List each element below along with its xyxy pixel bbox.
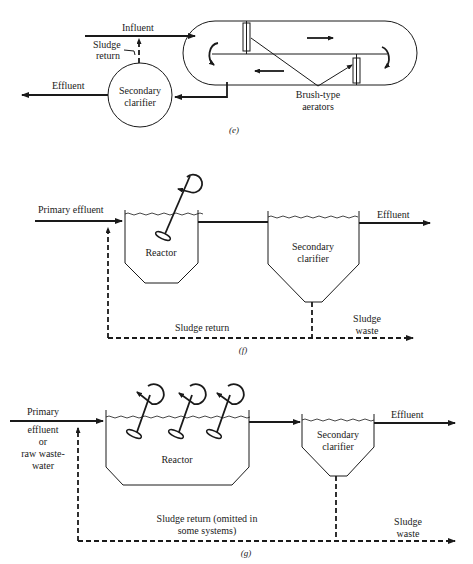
primary-label: Primary [27,406,59,417]
mechanical-aerator-icon-1 [125,384,163,440]
influent-label: Influent [122,22,154,33]
mechanical-aerator-icon-3 [205,384,243,440]
sludge-return-label-2: return [96,50,120,61]
ditch-outlet-line [175,82,227,97]
aerators-label-2: aerators [302,101,334,112]
sludge-return-label-1: Sludge [93,39,121,50]
effluent-or-label-4: water [32,460,55,471]
reactor-label: Reactor [161,454,193,465]
panel-g-plug-flow: Primary effluent or raw waste- water Rea… [10,384,455,558]
sludge-return-label-2: some systems) [178,525,237,537]
clarifier-label-2: clarifier [124,97,156,108]
panel-e-oxidation-ditch: Influent Sludge return Secondary clarifi… [22,21,417,135]
effluent-or-label-3: raw waste- [21,448,65,459]
primary-effluent-label: Primary effluent [38,204,104,215]
reactor-tank [106,410,249,485]
caption-f: (f) [239,345,248,355]
reactor-label: Reactor [145,247,177,258]
clarifier-label-2: clarifier [297,253,329,264]
effluent-or-label-2: or [39,436,48,447]
mechanical-aerator-icon-2 [167,384,205,440]
oxidation-ditch-outline [183,21,417,85]
effluent-label: Effluent [391,409,424,420]
sludge-return-label: Sludge return [175,322,229,333]
effluent-label: Effluent [52,80,85,91]
caption-e: (e) [229,125,239,135]
clarifier-label-1: Secondary [317,429,359,440]
aerators-label-1: Brush-type [296,89,341,100]
sludge-waste-label-2: waste [356,325,379,336]
sludge-waste-label-2: waste [397,528,420,539]
clarifier-label-2: clarifier [322,441,354,452]
mechanical-aerator-icon [154,175,202,243]
clarifier-label-1: Secondary [119,85,161,96]
panel-f-complete-mix: Primary effluent Reactor Secondary clari… [35,175,430,355]
sludge-waste-label-1: Sludge [353,313,381,324]
sludge-waste-label-1: Sludge [394,516,422,527]
clarifier-label-1: Secondary [292,241,334,252]
curved-flow-arrow-icon-right [382,47,389,68]
effluent-label: Effluent [377,209,410,220]
caption-g: (g) [241,548,252,558]
sludge-return-label-1: Sludge return (omitted in [157,513,258,525]
effluent-or-label-1: effluent [28,424,59,435]
